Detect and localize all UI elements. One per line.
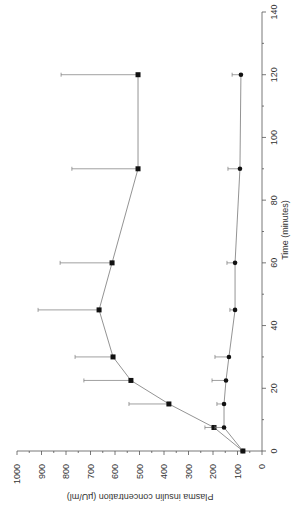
circle-marker bbox=[227, 355, 232, 360]
circle-marker bbox=[224, 378, 229, 383]
time-tick-label: 80 bbox=[269, 195, 279, 205]
plot-area bbox=[38, 72, 245, 453]
square-marker bbox=[136, 166, 141, 171]
square-marker bbox=[111, 354, 116, 359]
square-marker bbox=[128, 378, 133, 383]
insulin-chart: 0100200300400500600700800900100002040608… bbox=[0, 0, 306, 508]
axes: 0100200300400500600700800900100002040608… bbox=[12, 4, 279, 484]
circle-marker bbox=[233, 308, 238, 313]
insulin-tick-label: 900 bbox=[37, 464, 47, 479]
insulin-tick-label: 300 bbox=[184, 464, 194, 479]
insulin-tick-label: 800 bbox=[61, 464, 71, 479]
square-marker bbox=[136, 72, 141, 77]
time-axis-title: Time (minutes) bbox=[280, 200, 290, 260]
insulin-tick-label: 400 bbox=[159, 464, 169, 479]
time-tick-label: 140 bbox=[269, 4, 279, 19]
circle-marker bbox=[222, 402, 227, 407]
circle-marker bbox=[241, 449, 246, 454]
insulin-axis-title: Plasma insulin concentration (µU/ml) bbox=[67, 492, 214, 502]
square-marker bbox=[110, 260, 115, 265]
time-tick-label: 60 bbox=[269, 258, 279, 268]
circle-marker bbox=[222, 425, 227, 430]
time-tick-label: 0 bbox=[269, 448, 279, 453]
time-tick-label: 100 bbox=[269, 130, 279, 145]
insulin-tick-label: 0 bbox=[257, 464, 267, 469]
series-line-square bbox=[99, 75, 243, 451]
circle-marker bbox=[233, 261, 238, 266]
square-marker bbox=[166, 401, 171, 406]
square-marker bbox=[97, 307, 102, 312]
time-tick-label: 20 bbox=[269, 383, 279, 393]
insulin-tick-label: 100 bbox=[233, 464, 243, 479]
time-tick-label: 40 bbox=[269, 321, 279, 331]
circle-marker bbox=[239, 72, 244, 77]
insulin-tick-label: 500 bbox=[135, 464, 145, 479]
insulin-tick-label: 1000 bbox=[12, 464, 22, 484]
insulin-tick-label: 200 bbox=[208, 464, 218, 479]
time-tick-label: 120 bbox=[269, 67, 279, 82]
insulin-tick-label: 600 bbox=[110, 464, 120, 479]
insulin-tick-label: 700 bbox=[86, 464, 96, 479]
circle-marker bbox=[238, 166, 243, 171]
